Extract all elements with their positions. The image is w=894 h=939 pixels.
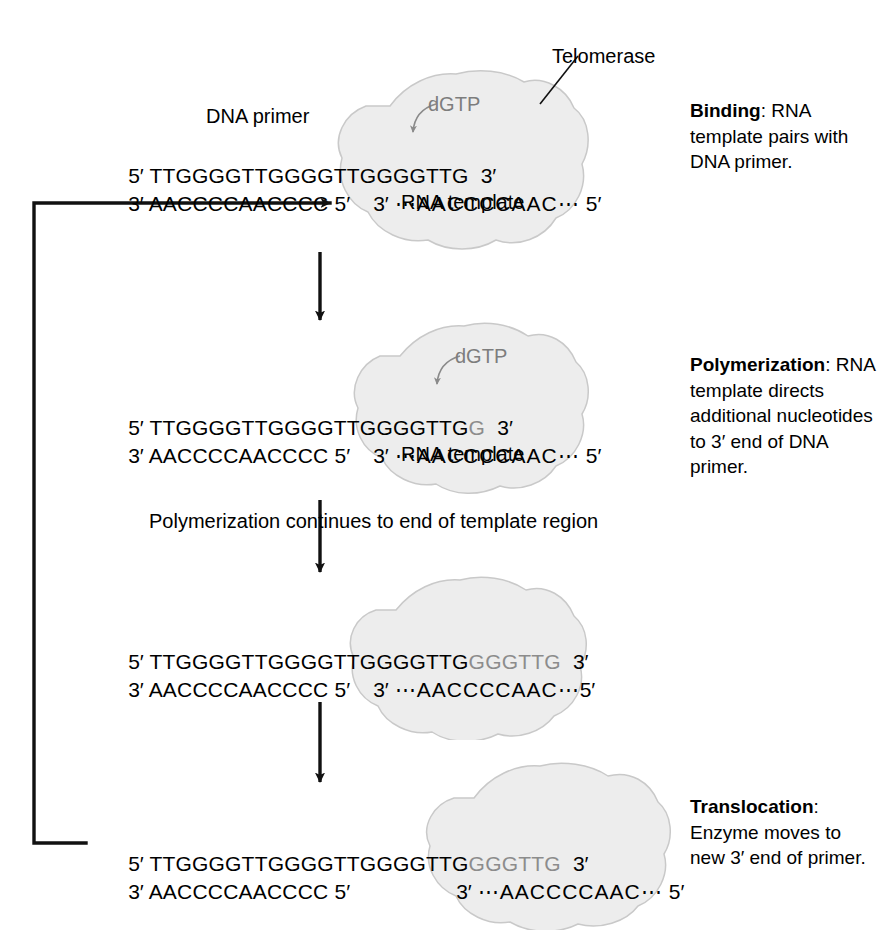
step3-template-5prime: 5′ [580, 678, 596, 701]
step1-template-3prime: 3′ [373, 192, 389, 215]
step3-bottom-5prime: 5′ [334, 678, 350, 701]
rna-template-label-2: RNA template [401, 442, 524, 467]
dgtp-label-1: dGTP [428, 92, 480, 117]
step4-bottom-strand: 3′ AACCCCAACCCC 5′ [104, 847, 350, 937]
step4-template-3prime: 3′ [456, 880, 472, 903]
step-heading-sep-4: : [814, 796, 819, 817]
step3-rna-template-strand: 3′ ⋯AACCCCAAC⋯5′ [349, 645, 595, 735]
step-body-translocation: Enzyme moves to new 3′ end of primer. [690, 822, 866, 869]
step-description-polymerization: Polymerization: RNA template directs add… [690, 352, 880, 480]
step2-template-3prime: 3′ [373, 444, 389, 467]
step-heading-polymerization: Polymerization [690, 354, 825, 375]
dgtp-label-2: dGTP [455, 344, 507, 369]
step-description-binding: Binding: RNA template pairs with DNA pri… [690, 98, 880, 175]
step4-bottom-3prime: 3′ [128, 880, 144, 903]
step4-bottom-sequence: AACCCCAACCCC [149, 880, 329, 903]
step4-template-5prime: 5′ [669, 880, 685, 903]
step-heading-translocation: Translocation [690, 796, 814, 817]
step4-template-sequence: ⋯AACCCCAAC⋯ [478, 880, 663, 903]
step2-template-5prime: 5′ [586, 444, 602, 467]
step3-template-3prime: 3′ [373, 678, 389, 701]
rna-template-label-1: RNA template [401, 190, 524, 215]
step1-bottom-5prime: 5′ [334, 192, 350, 215]
step1-bottom-strand: 3′ AACCCCAACCCC 5′ [104, 159, 350, 249]
step3-bottom-strand: 3′ AACCCCAACCCC 5′ [104, 645, 350, 735]
telomerase-label: Telomerase [552, 44, 655, 69]
step-heading-sep-1: : [761, 100, 772, 121]
step2-bottom-3prime: 3′ [128, 444, 144, 467]
step3-template-sequence: ⋯AACCCCAAC⋯ [395, 678, 580, 701]
step2-bottom-5prime: 5′ [334, 444, 350, 467]
step3-bottom-3prime: 3′ [128, 678, 144, 701]
step1-template-5prime: 5′ [586, 192, 602, 215]
step4-rna-template-strand: 3′ ⋯AACCCCAAC⋯ 5′ [432, 847, 684, 937]
polymerization-continues-note: Polymerization continues to end of templ… [149, 509, 329, 534]
telomerase-diagram: Telomerase dGTP DNA primer 5′ TTGGGGTTGG… [0, 0, 894, 939]
dna-primer-label: DNA primer [206, 104, 309, 129]
step1-bottom-sequence: AACCCCAACCCC [149, 192, 329, 215]
step2-bottom-sequence: AACCCCAACCCC [149, 444, 329, 467]
step1-bottom-3prime: 3′ [128, 192, 144, 215]
step2-bottom-strand: 3′ AACCCCAACCCC 5′ [104, 411, 350, 501]
step-description-translocation: Translocation: Enzyme moves to new 3′ en… [690, 794, 880, 871]
step-heading-binding: Binding [690, 100, 761, 121]
step4-bottom-5prime: 5′ [334, 880, 350, 903]
step3-bottom-sequence: AACCCCAACCCC [149, 678, 329, 701]
step-heading-sep-2: : [825, 354, 836, 375]
